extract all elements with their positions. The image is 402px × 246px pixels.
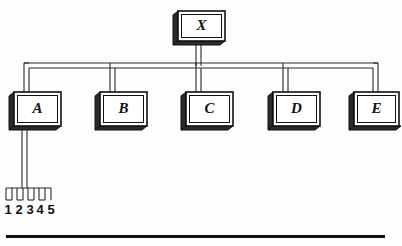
drop-conduit-e xyxy=(373,63,378,92)
terminal-drop-conduit xyxy=(22,128,27,188)
terminal-label-2: 2 xyxy=(15,202,22,217)
node-c-label: C xyxy=(204,100,215,116)
terminal-label-1: 1 xyxy=(4,202,11,217)
terminal-labels: 1 2 3 4 5 xyxy=(4,202,54,217)
drop-conduit-a xyxy=(24,63,29,92)
node-e-label: E xyxy=(370,100,381,116)
node-x[interactable]: X xyxy=(173,11,225,45)
node-x-label: X xyxy=(195,17,207,33)
node-a-label: A xyxy=(31,100,42,116)
drop-conduit-d xyxy=(283,63,288,92)
node-b[interactable]: B xyxy=(95,92,147,130)
node-e[interactable]: E xyxy=(349,92,401,130)
node-a[interactable]: A xyxy=(9,92,61,130)
bus-network xyxy=(24,42,378,92)
node-d-label: D xyxy=(290,100,302,116)
block-diagram-figure: X A B C xyxy=(0,0,402,246)
node-d[interactable]: D xyxy=(268,92,320,130)
root-drop-conduit xyxy=(196,42,201,66)
drop-conduit-b xyxy=(110,63,115,92)
node-b-label: B xyxy=(117,100,128,116)
terminal-label-5: 5 xyxy=(47,202,54,217)
diagram-canvas: X A B C xyxy=(0,0,402,246)
node-c[interactable]: C xyxy=(181,92,233,130)
drop-conduit-c xyxy=(196,63,201,92)
terminal-comb[interactable] xyxy=(6,188,51,200)
terminal-label-3: 3 xyxy=(26,202,33,217)
terminal-label-4: 4 xyxy=(36,202,44,217)
bottom-rule xyxy=(6,235,385,238)
